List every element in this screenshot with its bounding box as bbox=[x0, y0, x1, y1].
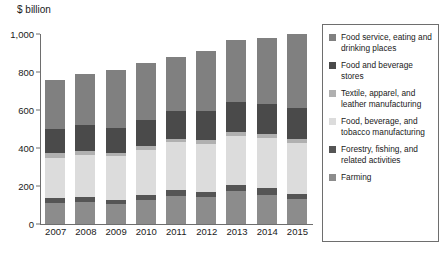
bar-column[interactable] bbox=[287, 34, 307, 224]
legend-swatch-icon bbox=[329, 62, 336, 69]
bar-segment[interactable] bbox=[226, 102, 246, 131]
bar-segment[interactable] bbox=[196, 51, 216, 111]
bar-segment[interactable] bbox=[45, 203, 65, 224]
bar-segment[interactable] bbox=[196, 197, 216, 224]
bar-segment[interactable] bbox=[287, 34, 307, 108]
bar-column[interactable] bbox=[106, 34, 126, 224]
x-axis-tick-label: 2011 bbox=[166, 226, 186, 237]
bar-segment[interactable] bbox=[287, 199, 307, 224]
bar-segment[interactable] bbox=[45, 80, 65, 129]
x-axis-labels: 200720082009201020112012201320142015 bbox=[40, 226, 312, 242]
bar-segment[interactable] bbox=[257, 104, 277, 134]
bar-segment[interactable] bbox=[75, 74, 95, 125]
bar-segment[interactable] bbox=[166, 57, 186, 111]
x-axis-tick-label: 2007 bbox=[45, 226, 65, 237]
bar-segment[interactable] bbox=[106, 70, 126, 127]
bar-column[interactable] bbox=[257, 34, 277, 224]
bar-segment[interactable] bbox=[106, 128, 126, 154]
plot-area: 02004006008001,000 bbox=[40, 34, 312, 224]
legend-swatch-icon bbox=[329, 146, 336, 153]
bar-segment[interactable] bbox=[45, 158, 65, 199]
bar-segment[interactable] bbox=[226, 191, 246, 224]
bar-segment[interactable] bbox=[75, 155, 95, 198]
bar-segment[interactable] bbox=[257, 138, 277, 188]
legend-item-label: Food service, eating and drinking places bbox=[341, 32, 433, 53]
bar-segment[interactable] bbox=[226, 136, 246, 185]
x-axis-tick-label: 2015 bbox=[287, 226, 307, 237]
bar-column[interactable] bbox=[226, 34, 246, 224]
bar-column[interactable] bbox=[196, 34, 216, 224]
x-axis-tick-label: 2012 bbox=[196, 226, 216, 237]
bar-segment[interactable] bbox=[257, 38, 277, 104]
legend-item-label: Forestry, fishing, and related activitie… bbox=[341, 144, 433, 165]
bar-segment[interactable] bbox=[287, 143, 307, 194]
bar-segment[interactable] bbox=[75, 202, 95, 224]
bar-segment[interactable] bbox=[75, 125, 95, 151]
legend-swatch-icon bbox=[329, 174, 336, 181]
bar-column[interactable] bbox=[45, 34, 65, 224]
x-axis-tick-label: 2014 bbox=[257, 226, 277, 237]
bar-segment[interactable] bbox=[136, 120, 156, 147]
x-axis-line bbox=[40, 224, 313, 225]
bar-column[interactable] bbox=[166, 34, 186, 224]
x-axis-tick-label: 2008 bbox=[75, 226, 95, 237]
legend-item[interactable]: Food and beverage stores bbox=[329, 60, 433, 81]
bar-segment[interactable] bbox=[136, 200, 156, 224]
bar-segment[interactable] bbox=[136, 150, 156, 196]
bar-segment[interactable] bbox=[287, 108, 307, 139]
legend-item-label: Textile, apparel, and leather manufactur… bbox=[341, 88, 433, 109]
y-axis-unit-label: $ billion bbox=[17, 4, 51, 15]
legend-swatch-icon bbox=[329, 118, 336, 125]
bar-group bbox=[40, 34, 312, 224]
bar-segment[interactable] bbox=[226, 40, 246, 103]
x-axis-tick-label: 2010 bbox=[136, 226, 156, 237]
legend-item[interactable]: Food, beverage, and tobacco manufacturin… bbox=[329, 116, 433, 137]
legend-item[interactable]: Food service, eating and drinking places bbox=[329, 32, 433, 53]
stacked-bar-chart: $ billion 02004006008001,000 20072008200… bbox=[0, 0, 445, 256]
bar-segment[interactable] bbox=[166, 111, 186, 139]
bar-segment[interactable] bbox=[196, 111, 216, 140]
bar-segment[interactable] bbox=[257, 195, 277, 224]
bar-segment[interactable] bbox=[166, 196, 186, 225]
bar-segment[interactable] bbox=[196, 144, 216, 192]
chart-legend: Food service, eating and drinking places… bbox=[322, 24, 439, 242]
bar-segment[interactable] bbox=[106, 156, 126, 200]
x-axis-tick-label: 2013 bbox=[226, 226, 246, 237]
bar-segment[interactable] bbox=[106, 204, 126, 224]
legend-item[interactable]: Textile, apparel, and leather manufactur… bbox=[329, 88, 433, 109]
x-axis-tick-label: 2009 bbox=[106, 226, 126, 237]
legend-item[interactable]: Forestry, fishing, and related activitie… bbox=[329, 144, 433, 165]
legend-item-label: Farming bbox=[341, 172, 371, 183]
bar-segment[interactable] bbox=[45, 129, 65, 154]
legend-item-label: Food, beverage, and tobacco manufacturin… bbox=[341, 116, 433, 137]
legend-item-label: Food and beverage stores bbox=[341, 60, 433, 81]
bar-segment[interactable] bbox=[136, 63, 156, 120]
bar-column[interactable] bbox=[136, 34, 156, 224]
legend-swatch-icon bbox=[329, 34, 336, 41]
bar-segment[interactable] bbox=[166, 142, 186, 190]
bar-column[interactable] bbox=[75, 34, 95, 224]
legend-item[interactable]: Farming bbox=[329, 172, 433, 183]
legend-swatch-icon bbox=[329, 90, 336, 97]
